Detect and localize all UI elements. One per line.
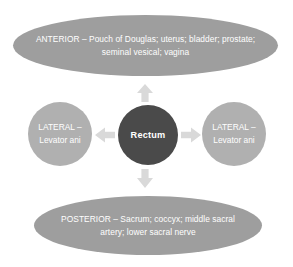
anatomy-relations-diagram: ANTERIOR – Pouch of Douglas; uterus; bla… <box>0 0 293 267</box>
lateral-right-node-label: LATERAL – Levator ani <box>202 121 266 146</box>
arrow-right-icon <box>180 125 202 145</box>
posterior-node: POSTERIOR – Sacrum; coccyx; middle sacra… <box>34 196 262 255</box>
arrow-up-icon <box>135 83 155 103</box>
lateral-right-node: LATERAL – Levator ani <box>202 102 266 166</box>
arrow-left-icon <box>94 125 116 145</box>
anterior-node-label: ANTERIOR – Pouch of Douglas; uterus; bla… <box>13 33 278 58</box>
rectum-center-label: Rectum <box>131 130 166 140</box>
rectum-center-node: Rectum <box>118 105 178 165</box>
lateral-left-node-label: LATERAL – Levator ani <box>28 121 92 146</box>
arrow-down-icon <box>135 167 155 189</box>
anterior-node: ANTERIOR – Pouch of Douglas; uterus; bla… <box>13 15 278 76</box>
posterior-node-label: POSTERIOR – Sacrum; coccyx; middle sacra… <box>34 213 262 238</box>
lateral-left-node: LATERAL – Levator ani <box>28 102 92 166</box>
